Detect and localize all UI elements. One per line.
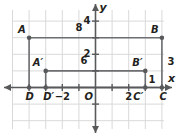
point-dot-B[interactable] xyxy=(160,35,165,40)
y-axis-arrow-up xyxy=(92,4,99,11)
point-label-Bprime: B′ xyxy=(132,58,142,68)
point-dot-Aprime[interactable] xyxy=(43,69,48,74)
point-dot-C[interactable] xyxy=(160,85,165,90)
point-dot-Cprime[interactable] xyxy=(143,85,148,90)
y-axis-label: y xyxy=(100,2,107,13)
y-tick-label-4: 4 xyxy=(84,16,91,26)
point-label-C: C xyxy=(159,92,166,102)
coordinate-plane-figure: ABCDA′B′C′D′−2224Oxy8631 xyxy=(0,0,181,137)
point-dot-Dprime[interactable] xyxy=(43,85,48,90)
point-label-Dprime: D′ xyxy=(43,92,54,102)
point-dot-Bprime[interactable] xyxy=(143,69,148,74)
dimension-label-inner-width: 6 xyxy=(80,56,87,66)
grid-lines xyxy=(12,10,164,129)
y-axis-arrow-down xyxy=(92,126,99,133)
point-label-Aprime: A′ xyxy=(33,58,43,68)
dimension-label-inner-height: 1 xyxy=(148,75,155,85)
point-label-Cprime: C′ xyxy=(133,92,143,102)
x-tick-label--2: −2 xyxy=(55,92,70,102)
point-dot-A[interactable] xyxy=(27,35,32,40)
point-label-A: A xyxy=(18,25,26,35)
dimension-label-outer-height: 3 xyxy=(168,57,175,67)
x-tick-label-2: 2 xyxy=(125,92,132,102)
origin-label: O xyxy=(85,92,94,102)
x-axis-arrow-right xyxy=(165,84,172,91)
dimension-label-outer-width: 8 xyxy=(75,23,82,33)
point-dot-D[interactable] xyxy=(27,85,32,90)
x-axis-label: x xyxy=(168,73,175,84)
point-label-B: B xyxy=(151,25,159,35)
x-axis-arrow-left xyxy=(4,84,11,91)
point-label-D: D xyxy=(26,92,34,102)
